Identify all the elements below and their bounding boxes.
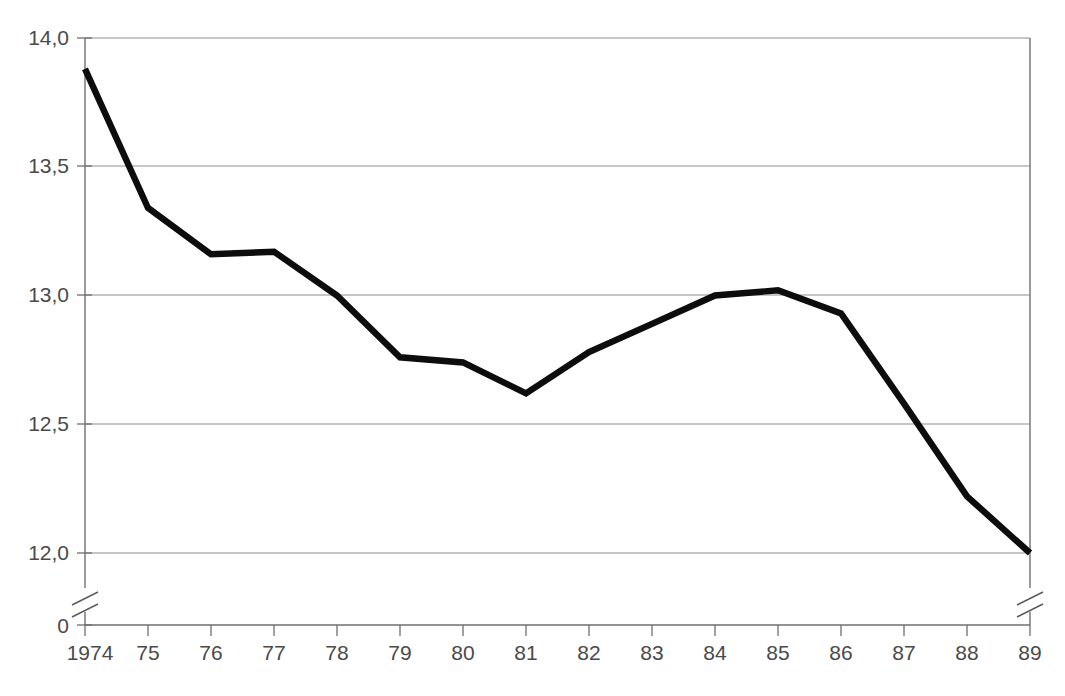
x-tick-label-77: 77 xyxy=(262,641,285,664)
y-tick-label-zero: 0 xyxy=(57,614,69,637)
x-tick-label-75: 75 xyxy=(136,641,159,664)
y-tick-label-13-0: 13,0 xyxy=(28,283,69,306)
y-tick-label-12-5: 12,5 xyxy=(28,412,69,435)
x-tick-label-89: 89 xyxy=(1018,641,1041,664)
y-tick-labels: 14,0 13,5 13,0 12,5 12,0 0 xyxy=(28,26,69,637)
x-tick-label-87: 87 xyxy=(892,641,915,664)
chart-canvas: 14,0 13,5 13,0 12,5 12,0 0 197 xyxy=(0,0,1065,696)
x-tick-label-76: 76 xyxy=(199,641,222,664)
x-tick-label-83: 83 xyxy=(640,641,663,664)
y-tick-label-14-0: 14,0 xyxy=(28,26,69,49)
x-tick-labels: 1974 75 76 77 78 79 80 81 82 83 84 85 86… xyxy=(67,641,1042,664)
y-tick-label-12-0: 12,0 xyxy=(28,541,69,564)
x-tick-label-82: 82 xyxy=(577,641,600,664)
x-tick-marks xyxy=(85,625,1030,636)
gridlines xyxy=(85,38,1030,553)
x-tick-label-1974: 1974 xyxy=(67,641,114,664)
line-chart: 14,0 13,5 13,0 12,5 12,0 0 197 xyxy=(0,0,1065,696)
x-tick-label-86: 86 xyxy=(829,641,852,664)
x-tick-label-80: 80 xyxy=(451,641,474,664)
x-tick-label-85: 85 xyxy=(766,641,789,664)
plot-frame xyxy=(85,38,1030,625)
y-tick-label-13-5: 13,5 xyxy=(28,154,69,177)
x-tick-label-84: 84 xyxy=(703,641,727,664)
x-tick-label-79: 79 xyxy=(388,641,411,664)
x-tick-label-78: 78 xyxy=(325,641,348,664)
x-tick-label-88: 88 xyxy=(955,641,978,664)
x-tick-label-81: 81 xyxy=(514,641,537,664)
data-series-line xyxy=(85,69,1030,553)
